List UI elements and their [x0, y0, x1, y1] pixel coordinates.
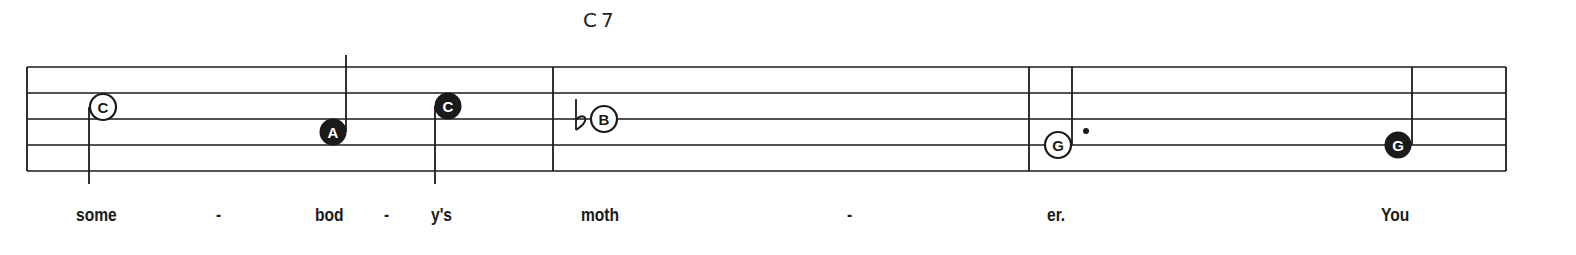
staff-svg: C A C B G	[0, 0, 1576, 255]
sheet-music-score: C7 C A C	[0, 0, 1576, 255]
lyric-syllable: moth	[581, 204, 619, 226]
lyric-hyphen: -	[847, 204, 852, 226]
lyric-syllable: er.	[1047, 204, 1065, 226]
note-letter: G	[1052, 137, 1064, 154]
note-g-quarter[interactable]: G	[1385, 67, 1413, 159]
lyric-syllable: y's	[431, 204, 452, 226]
note-letter: C	[98, 99, 109, 116]
lyric-hyphen: -	[216, 204, 221, 226]
note-b-flat-whole[interactable]: B	[576, 99, 617, 132]
note-letter: B	[599, 111, 610, 128]
note-letter: G	[1392, 137, 1404, 154]
lyric-syllable: You	[1381, 204, 1409, 226]
note-a-quarter[interactable]: A	[320, 55, 347, 146]
note-letter: C	[443, 98, 454, 115]
lyric-syllable: some	[76, 204, 117, 226]
augmentation-dot-icon	[1083, 128, 1089, 134]
lyric-hyphen: -	[384, 204, 389, 226]
staff-lines	[27, 67, 1506, 171]
note-letter: A	[328, 124, 339, 141]
lyric-syllable: bod	[315, 204, 344, 226]
flat-accidental-icon	[576, 99, 585, 130]
